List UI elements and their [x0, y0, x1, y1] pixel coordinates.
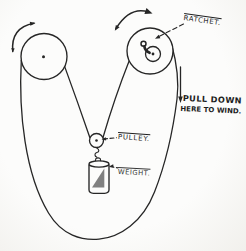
pulley-axle-dot [95, 139, 98, 142]
left-rotation-arrowhead-top [30, 22, 36, 26]
right-rotation-arrowhead-right [144, 8, 152, 14]
right-rotation-arrow [116, 11, 149, 29]
hook [95, 148, 99, 157]
cord-inner-left [65, 67, 90, 138]
mechanism-drawing [0, 0, 246, 251]
diagram-canvas: RATCHET. PULL DOWN HERE TO WIND. PULLEY.… [0, 0, 246, 251]
ratchet-hub-dot [152, 53, 155, 56]
pull-down-label: PULL DOWN HERE TO WIND. [182, 94, 242, 116]
right-wheel [127, 28, 173, 74]
cord-inner-right [103, 61, 129, 138]
pull-down-label-line1: PULL DOWN [183, 94, 243, 106]
right-rotation-arrowhead-left [115, 25, 120, 31]
weight-top [89, 161, 109, 167]
left-wheel-axle-dot [42, 55, 45, 58]
